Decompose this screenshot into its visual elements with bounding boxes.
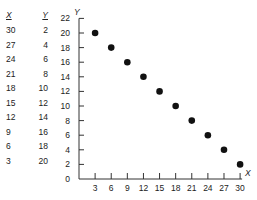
x-tick-label: 12 <box>139 183 149 193</box>
y-axis-label: Y <box>74 7 81 17</box>
data-point <box>172 103 179 110</box>
data-point <box>188 117 195 124</box>
data-point <box>237 161 244 168</box>
data-point <box>140 74 147 81</box>
y-tick-label: 2 <box>65 159 70 169</box>
x-tick-label: 15 <box>155 183 165 193</box>
y-tick-label: 4 <box>65 145 70 155</box>
x-tick-label: 6 <box>109 183 114 193</box>
x-tick-label: 3 <box>93 183 98 193</box>
x-tick-label: 9 <box>125 183 130 193</box>
x-tick-label: 18 <box>171 183 181 193</box>
y-tick-label: 22 <box>61 13 71 23</box>
y-tick-label: 14 <box>61 72 71 82</box>
y-tick-label: 8 <box>65 116 70 126</box>
data-point <box>108 44 115 51</box>
data-point <box>205 132 212 139</box>
x-axis-label: X <box>244 168 251 178</box>
y-tick-label: 16 <box>61 57 71 67</box>
x-tick-label: 21 <box>187 183 197 193</box>
x-tick-label: 27 <box>219 183 229 193</box>
y-tick-label: 18 <box>61 43 71 53</box>
x-tick-label: 30 <box>235 183 245 193</box>
data-point <box>124 59 131 66</box>
data-point <box>156 88 163 95</box>
y-tick-label: 12 <box>61 86 71 96</box>
x-tick-label: 24 <box>203 183 213 193</box>
y-tick-label: 6 <box>65 130 70 140</box>
y-tick-label: 0 <box>65 174 70 184</box>
data-point <box>221 147 228 154</box>
y-tick-label: 20 <box>61 28 71 38</box>
y-tick-label: 10 <box>61 101 71 111</box>
data-point <box>92 30 99 37</box>
scatter-chart: 024681012141618202236912151821242730YX <box>0 0 257 200</box>
